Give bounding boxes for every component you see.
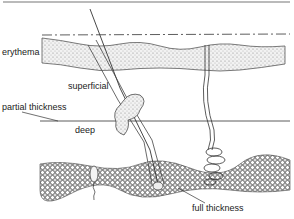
- erythema-line: [42, 34, 290, 35]
- partial-thickness-pointer: [22, 112, 58, 121]
- nerve-corpuscle: [90, 166, 98, 182]
- label-erythema: erythema: [2, 48, 40, 57]
- label-deep: deep: [75, 126, 95, 135]
- hair-shaft: [90, 9, 158, 184]
- full-thickness-pointer: [178, 188, 205, 203]
- subcutaneous-fat-layer: [40, 155, 290, 201]
- hair-bulb: [153, 182, 163, 190]
- label-full-thickness: full thickness: [192, 204, 244, 213]
- label-partial-thickness: partial thickness: [2, 103, 67, 112]
- label-superficial: superficial: [68, 82, 109, 91]
- epidermis-layer: [42, 38, 285, 71]
